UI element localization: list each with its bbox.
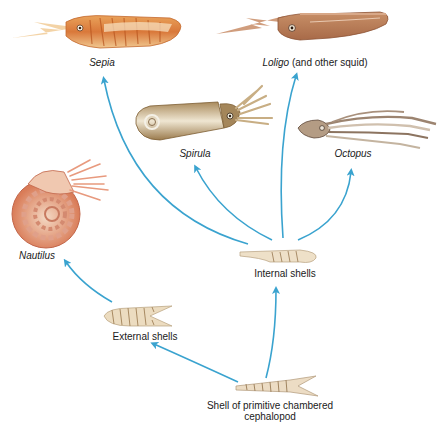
spirula-illustration bbox=[136, 86, 272, 140]
arrow-internal-to-octopus bbox=[298, 172, 351, 240]
arrow-root-to-external bbox=[154, 344, 238, 382]
label-loligo-genus: Loligo bbox=[262, 57, 289, 68]
label-primitive-shell-line2: cephalopod bbox=[190, 411, 350, 422]
label-octopus: Octopus bbox=[327, 148, 379, 159]
arrow-external-to-nautilus bbox=[66, 262, 112, 302]
internal-shell-illustration bbox=[240, 250, 316, 263]
label-external-shells: External shells bbox=[100, 331, 190, 342]
external-shell-illustration bbox=[104, 306, 172, 326]
arrow-root-to-internal bbox=[266, 290, 276, 378]
label-primitive-shell: Shell of primitive chambered cephalopod bbox=[190, 400, 350, 422]
sepia-illustration bbox=[12, 16, 181, 48]
label-spirula: Spirula bbox=[170, 148, 220, 159]
primitive-shell-illustration bbox=[236, 376, 318, 396]
label-loligo-suffix: (and other squid) bbox=[289, 57, 367, 68]
octopus-illustration bbox=[298, 111, 436, 148]
arrow-internal-to-loligo bbox=[281, 76, 296, 238]
label-nautilus: Nautilus bbox=[14, 250, 60, 261]
nautilus-illustration bbox=[12, 160, 108, 248]
label-primitive-shell-line1: Shell of primitive chambered bbox=[190, 400, 350, 411]
label-internal-shells: Internal shells bbox=[240, 268, 330, 279]
cephalopod-evolution-diagram: Sepia Loligo (and other squid) Spirula O… bbox=[0, 0, 448, 422]
arrow-internal-to-spirula bbox=[196, 168, 272, 240]
loligo-illustration bbox=[216, 12, 388, 40]
label-sepia: Sepia bbox=[82, 57, 122, 68]
diagram-artwork bbox=[0, 0, 448, 422]
label-loligo: Loligo (and other squid) bbox=[250, 57, 380, 68]
